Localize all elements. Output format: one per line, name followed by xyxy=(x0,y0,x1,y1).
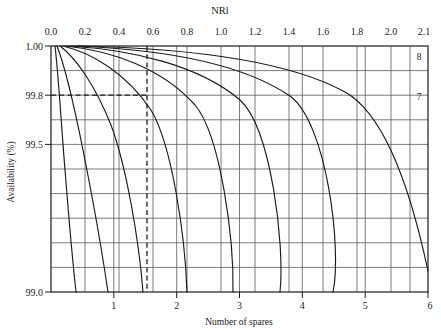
chart-figure: NRl 0.0 0.2 0.4 0.6 0.8 1.0 1.2 1.4 1.6 … xyxy=(0,0,441,332)
x-axis-label: Number of spares xyxy=(205,317,273,327)
x-tick-label: 3 xyxy=(237,300,242,311)
top-tick-label: 0.4 xyxy=(113,26,126,37)
y-tick-label: 1.00 xyxy=(26,41,44,52)
chart-title-text: NRl xyxy=(211,5,229,16)
x-tick-label: 6 xyxy=(428,300,433,311)
curve-label-7: 7 xyxy=(417,92,422,102)
top-tick-label: 1.6 xyxy=(317,26,330,37)
y-tick-label: 99.5 xyxy=(26,139,44,150)
y-tick-label: 99.8 xyxy=(26,90,44,101)
y-axis-tick-labels: 1.00 99.8 99.5 99.0 xyxy=(26,41,44,298)
x-tick-label: 4 xyxy=(300,300,305,311)
top-tick-label: 0.6 xyxy=(147,26,160,37)
top-tick-label: 1.8 xyxy=(351,26,364,37)
y-axis-tick-marks xyxy=(45,46,51,292)
top-axis-tick-labels: 0.0 0.2 0.4 0.6 0.8 1.0 1.2 1.4 1.6 1.8 … xyxy=(45,26,431,37)
top-tick-label: 2.0 xyxy=(385,26,398,37)
curve-label-8: 8 xyxy=(417,52,422,62)
y-tick-label: 99.0 xyxy=(26,287,44,298)
top-tick-label: 1.2 xyxy=(249,26,262,37)
chart-title: NRl xyxy=(211,5,229,16)
top-tick-label: 0.8 xyxy=(181,26,194,37)
y-axis-label: Availability (%) xyxy=(6,141,17,202)
chart-svg: NRl 0.0 0.2 0.4 0.6 0.8 1.0 1.2 1.4 1.6 … xyxy=(0,0,441,332)
x-tick-label: 5 xyxy=(363,300,368,311)
x-tick-label: 1 xyxy=(111,300,116,311)
top-tick-label: 0.2 xyxy=(79,26,92,37)
x-tick-label: 2 xyxy=(174,300,179,311)
top-tick-label: 2.1 xyxy=(418,26,431,37)
bottom-axis-tick-labels: 1 2 3 4 5 6 xyxy=(111,300,432,311)
top-tick-label: 1.0 xyxy=(215,26,228,37)
top-tick-label: 1.4 xyxy=(283,26,296,37)
top-tick-label: 0.0 xyxy=(45,26,58,37)
x-axis-tick-marks xyxy=(114,292,428,298)
